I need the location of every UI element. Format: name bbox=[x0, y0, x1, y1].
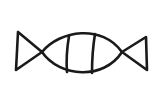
left-inner-divider bbox=[67, 36, 69, 72]
right-triangle-end bbox=[122, 37, 147, 70]
candy-sketch-drawing bbox=[0, 0, 158, 112]
right-inner-divider bbox=[92, 34, 95, 73]
left-triangle-end bbox=[16, 32, 42, 70]
central-lens-top-arc bbox=[42, 33, 122, 52]
central-lens-bottom-arc bbox=[42, 52, 122, 72]
